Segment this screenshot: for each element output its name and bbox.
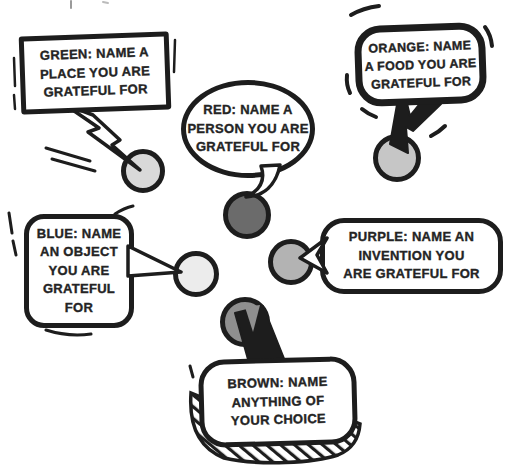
purple-bubble-text-line: INVENTION YOU	[358, 247, 464, 266]
green-bubble-text-line: GRATEFUL FOR	[43, 80, 148, 102]
gratitude-speech-bubbles-diagram: GREEN: NAME A PLACE YOU ARE GRATEFUL FOR…	[0, 0, 512, 466]
brown-accent-stroke-icon	[190, 366, 193, 377]
red-bubble-text-line: PERSON YOU ARE	[187, 120, 308, 139]
brown-bubble-text-line: YOUR CHOICE	[231, 410, 326, 431]
red-speech-bubble: RED: NAME A PERSON YOU ARE GRATEFUL FOR	[181, 80, 315, 178]
orange-dot	[373, 134, 421, 182]
brown-dot	[220, 297, 270, 347]
blue-bubble-text-line: YOU ARE	[49, 262, 110, 281]
red-bubble-text-line: GRATEFUL FOR	[196, 138, 300, 157]
red-bubble-text-line: RED: NAME A	[203, 101, 292, 120]
purple-speech-bubble: PURPLE: NAME AN INVENTION YOU ARE GRATEF…	[320, 218, 503, 294]
green-speech-bubble: GREEN: NAME A PLACE YOU ARE GRATEFUL FOR	[19, 31, 172, 114]
purple-bubble-text-line: PURPLE: NAME AN	[349, 228, 474, 247]
red-dot	[223, 191, 271, 239]
orange-speech-bubble: ORANGE: NAME A FOOD YOU ARE GRATEFUL FOR	[354, 22, 488, 108]
blue-bubble-text-line: GRATEFUL	[43, 280, 115, 299]
green-speed-lines-icon	[46, 148, 95, 171]
blue-bubble-text-line: AN OBJECT	[40, 243, 118, 262]
green-dot	[121, 149, 165, 193]
purple-bubble-text-line: ARE GRATEFUL FOR	[343, 265, 479, 284]
purple-dot	[268, 239, 314, 285]
brown-bubble-text-line: ANYTHING OF	[231, 392, 324, 413]
orange-bubble-text-line: GRATEFUL FOR	[371, 72, 472, 93]
blue-speech-bubble: BLUE: NAME AN OBJECT YOU ARE GRATEFUL FO…	[24, 214, 134, 328]
blue-bubble-text-line: BLUE: NAME	[37, 225, 122, 244]
stray-mark-icon	[103, 2, 108, 3]
blue-dot	[173, 251, 219, 297]
brown-speech-bubble: BROWN: NAME ANYTHING OF YOUR CHOICE	[198, 356, 358, 448]
blue-bubble-text-line: FOR	[65, 299, 93, 318]
